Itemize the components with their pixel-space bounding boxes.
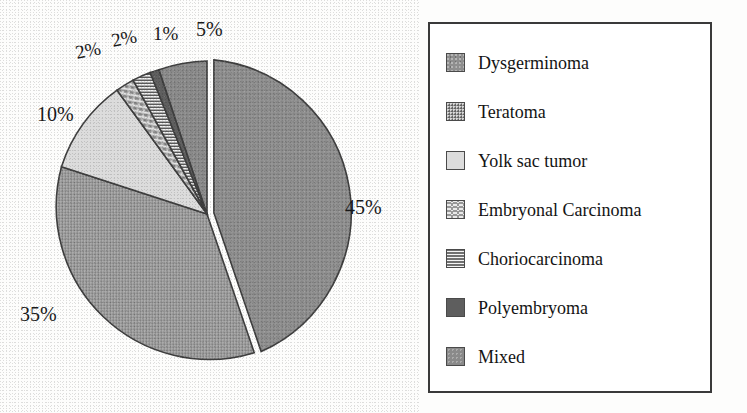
legend-swatch-mixed: [446, 347, 465, 366]
legend-item-polyembryoma[interactable]: Polyembryoma: [446, 283, 702, 332]
legend-label-embryonal-carcinoma: Embryonal Carcinoma: [478, 201, 641, 219]
legend-label-dysgerminoma: Dysgerminoma: [478, 54, 589, 72]
pie-chart-figure: 45% 35% 10% 2% 2% 1% 5% Dysgerminoma Ter…: [0, 0, 747, 413]
data-label-mixed: 5%: [196, 18, 223, 41]
legend-label-mixed: Mixed: [478, 348, 525, 366]
legend-item-choriocarcinoma[interactable]: Choriocarcinoma: [446, 234, 702, 283]
legend-swatch-polyembryoma: [446, 298, 465, 317]
legend-label-polyembryoma: Polyembryoma: [478, 299, 588, 317]
legend-item-embryonal-carcinoma[interactable]: Embryonal Carcinoma: [446, 185, 702, 234]
legend-list: Dysgerminoma Teratoma Yolk sac tumor Emb…: [446, 38, 702, 383]
legend-label-choriocarcinoma: Choriocarcinoma: [478, 250, 603, 268]
legend-item-teratoma[interactable]: Teratoma: [446, 87, 702, 136]
data-label-polyembryoma: 1%: [153, 23, 178, 45]
legend-swatch-choriocarcinoma: [446, 249, 465, 268]
legend-swatch-embryonal-carcinoma: [446, 200, 465, 219]
legend-label-yolk-sac-tumor: Yolk sac tumor: [478, 152, 587, 170]
legend-item-dysgerminoma[interactable]: Dysgerminoma: [446, 38, 702, 87]
legend-label-teratoma: Teratoma: [478, 103, 546, 121]
data-label-yolk-sac-tumor: 10%: [37, 103, 74, 126]
data-label-dysgerminoma: 45%: [345, 196, 382, 219]
legend-swatch-dysgerminoma: [446, 53, 465, 72]
pie-chart-plot-area: 45% 35% 10% 2% 2% 1% 5%: [0, 0, 420, 413]
legend-item-yolk-sac-tumor[interactable]: Yolk sac tumor: [446, 136, 702, 185]
legend-swatch-teratoma: [446, 102, 465, 121]
legend: Dysgerminoma Teratoma Yolk sac tumor Emb…: [428, 22, 712, 393]
data-label-teratoma: 35%: [20, 303, 57, 326]
legend-item-mixed[interactable]: Mixed: [446, 332, 702, 381]
legend-swatch-yolk-sac-tumor: [446, 151, 465, 170]
